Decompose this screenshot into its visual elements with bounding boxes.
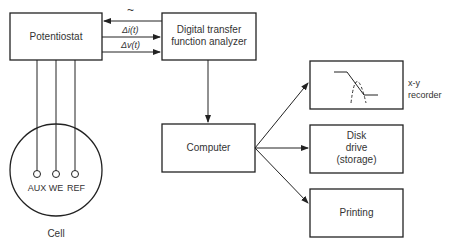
electrode-ref [72,171,79,178]
electrode-aux [34,171,41,178]
recorder-label: x-y recorder [408,77,448,101]
arrow-computer-recorder [255,83,308,148]
printing-label: Printing [310,207,403,219]
computer-label: Computer [162,142,255,154]
analyzer-label: Digital transfer function analyzer [170,24,248,48]
electrode-ref-label: REF [64,182,88,194]
arrow-computer-printing [255,148,308,203]
electrode-we [53,171,60,178]
disk-label: Disk drive (storage) [335,130,378,166]
perturbation-label: ~ [127,3,134,17]
recorder-plot-icon [334,72,378,103]
cell-label: Cell [36,228,76,240]
potentiostat-label: Potentiostat [10,31,102,43]
voltage-label: Δv(t) [121,40,140,50]
current-label: Δi(t) [122,25,139,35]
